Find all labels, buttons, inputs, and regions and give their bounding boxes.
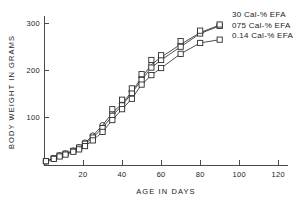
data-point-marker bbox=[198, 28, 203, 33]
data-point-marker bbox=[119, 97, 124, 102]
y-tick-label: 200 bbox=[27, 66, 40, 75]
data-point-marker bbox=[110, 117, 115, 122]
x-tick-label: 100 bbox=[232, 170, 245, 179]
data-point-marker bbox=[110, 107, 115, 112]
x-axis-title: AGE IN DAYS bbox=[136, 187, 195, 196]
data-point-marker bbox=[149, 65, 154, 70]
series-square bbox=[43, 23, 222, 163]
legend-label: 075 Cal-% EFA bbox=[232, 21, 291, 30]
series-group bbox=[43, 22, 222, 164]
data-point-marker bbox=[43, 159, 48, 164]
data-point-marker bbox=[217, 22, 222, 27]
chart-svg: 100200300 20406080100120 BODY WEIGHT IN … bbox=[0, 0, 301, 202]
data-point-marker bbox=[63, 152, 68, 157]
series-square bbox=[43, 37, 222, 164]
x-tick-label: 60 bbox=[157, 170, 166, 179]
x-tick-label: 20 bbox=[79, 170, 88, 179]
data-point-marker bbox=[129, 96, 134, 101]
x-tick-label: 120 bbox=[272, 170, 285, 179]
legend-label: 30 Cal-% EFA bbox=[232, 10, 286, 19]
y-axis-title: BODY WEIGHT IN GRAMS bbox=[7, 35, 16, 149]
x-tick-label: 80 bbox=[196, 170, 205, 179]
data-point-marker bbox=[119, 107, 124, 112]
data-point-marker bbox=[71, 149, 76, 154]
legend-group: 30 Cal-% EFA075 Cal-% EFA0.14 Cal-% EFA bbox=[232, 10, 293, 40]
data-point-marker bbox=[51, 156, 56, 161]
data-point-marker bbox=[100, 129, 105, 134]
legend-label: 0.14 Cal-% EFA bbox=[232, 31, 293, 40]
data-point-marker bbox=[149, 73, 154, 78]
x-tick-group: 20406080100120 bbox=[79, 160, 285, 179]
y-tick-label: 300 bbox=[27, 19, 40, 28]
y-tick-group: 100200300 bbox=[27, 19, 49, 123]
data-point-marker bbox=[178, 38, 183, 43]
x-tick-label: 40 bbox=[118, 170, 127, 179]
data-point-marker bbox=[139, 72, 144, 77]
data-point-marker bbox=[178, 44, 183, 49]
data-point-marker bbox=[178, 51, 183, 56]
data-point-marker bbox=[139, 82, 144, 87]
data-point-marker bbox=[198, 40, 203, 45]
data-point-marker bbox=[217, 37, 222, 42]
data-point-marker bbox=[159, 65, 164, 70]
data-point-marker bbox=[82, 143, 87, 148]
data-point-marker bbox=[159, 53, 164, 58]
data-point-marker bbox=[129, 86, 134, 91]
y-tick-label: 100 bbox=[27, 113, 40, 122]
data-point-marker bbox=[57, 154, 62, 159]
chart-figure: 100200300 20406080100120 BODY WEIGHT IN … bbox=[0, 0, 301, 202]
data-point-marker bbox=[90, 138, 95, 143]
data-point-marker bbox=[149, 57, 154, 62]
data-point-marker bbox=[77, 147, 82, 152]
